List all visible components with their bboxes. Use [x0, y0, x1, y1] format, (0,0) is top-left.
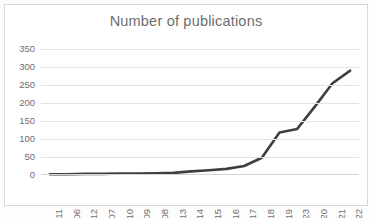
x-axis-tick-label: 2020	[319, 209, 329, 218]
x-axis-tick-label: 2012	[89, 209, 99, 218]
x-axis-tick-label: 2008	[160, 209, 170, 218]
x-axis-tick-label: 2009	[142, 209, 152, 218]
x-axis: 2011200620122007201020092008201320142015…	[41, 177, 359, 211]
y-axis-tick-label: 50	[24, 152, 35, 162]
x-axis-tick-label: 2010	[125, 209, 135, 218]
gridline	[41, 139, 359, 140]
y-axis-tick-label: 350	[19, 44, 35, 54]
x-axis-tick-label: 2007	[107, 209, 117, 218]
y-axis-tick-label: 300	[19, 62, 35, 72]
x-axis-tick-label: 2022	[354, 209, 364, 218]
chart-container: Number of publications 05010015020025030…	[0, 0, 375, 218]
gridline	[41, 121, 359, 122]
chart-frame: Number of publications 05010015020025030…	[4, 4, 368, 206]
gridline	[41, 49, 359, 50]
x-axis-tick-label: 2006	[72, 209, 82, 218]
x-axis-tick-label: 2011	[54, 209, 64, 218]
gridline	[41, 174, 359, 175]
x-axis-tick-label: 2017	[248, 209, 258, 218]
y-axis: 050100150200250300350	[5, 49, 39, 175]
chart-title: Number of publications	[5, 13, 367, 29]
y-axis-tick-label: 0	[30, 170, 35, 180]
y-axis-tick-label: 100	[19, 134, 35, 144]
x-axis-tick-label: 2013	[178, 209, 188, 218]
y-axis-tick-label: 200	[19, 98, 35, 108]
y-axis-tick-label: 150	[19, 116, 35, 126]
x-axis-tick-label: 2021	[337, 209, 347, 218]
gridline	[41, 85, 359, 86]
x-axis-tick-label: 2015	[213, 209, 223, 218]
plot-area	[41, 49, 359, 175]
gridline	[41, 67, 359, 68]
gridline	[41, 157, 359, 158]
x-axis-tick-label: 2023	[301, 209, 311, 218]
x-axis-tick-label: 2018	[266, 209, 276, 218]
x-axis-tick-label: 2014	[195, 209, 205, 218]
gridline	[41, 103, 359, 104]
x-axis-tick-label: 2016	[231, 209, 241, 218]
series-polyline	[50, 71, 350, 175]
x-axis-tick-label: 2019	[284, 209, 294, 218]
y-axis-tick-label: 250	[19, 80, 35, 90]
